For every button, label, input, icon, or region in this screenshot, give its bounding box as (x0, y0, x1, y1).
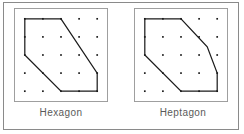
grid-dot (144, 90, 146, 92)
panel-hexagon: Hexagon (0, 0, 122, 134)
grid-dot (78, 18, 80, 20)
grid-dot (96, 18, 98, 20)
grid-dot (144, 72, 146, 74)
grid-dot (162, 90, 164, 92)
grid-dot (24, 90, 26, 92)
panel-heptagon: Heptagon (122, 0, 244, 134)
grid-dot (60, 72, 62, 74)
grid-dot (216, 18, 218, 20)
grid-dot (42, 90, 44, 92)
grid-dot (180, 54, 182, 56)
grid-dot (78, 54, 80, 56)
grid-dot (42, 54, 44, 56)
grid-dot (24, 72, 26, 74)
grid-dot (180, 36, 182, 38)
geoboard-hexagon (14, 8, 108, 102)
grid-dot (198, 72, 200, 74)
grid-dot (60, 36, 62, 38)
grid-dot (78, 72, 80, 74)
geoboard-hexagon-svg (14, 8, 108, 102)
geoboard-figure: Hexagon Heptagon (0, 0, 244, 134)
grid-dot (216, 54, 218, 56)
grid-dot (180, 72, 182, 74)
grid-dot (162, 54, 164, 56)
grid-dot (60, 54, 62, 56)
grid-dot (42, 36, 44, 38)
grid-dot (198, 18, 200, 20)
panel-caption-hexagon: Hexagon (0, 106, 122, 120)
grid-dot (96, 36, 98, 38)
grid-dot (198, 54, 200, 56)
geoboard-heptagon-svg (134, 8, 228, 102)
panel-caption-heptagon: Heptagon (122, 106, 244, 120)
grid-dot (96, 54, 98, 56)
grid-dot (78, 36, 80, 38)
geoboard-heptagon (134, 8, 228, 102)
grid-dot (162, 36, 164, 38)
grid-dot (216, 36, 218, 38)
panel-row: Hexagon Heptagon (0, 0, 244, 134)
